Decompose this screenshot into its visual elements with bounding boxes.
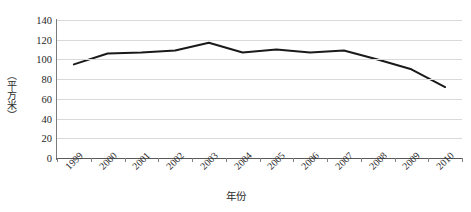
- y-axis-title: （平方米）: [2, 52, 20, 138]
- y-tick-label: 100: [36, 54, 52, 65]
- x-tick-mark: [125, 158, 126, 162]
- x-tick-mark: [226, 158, 227, 162]
- y-tick-label: 20: [42, 133, 53, 144]
- x-tick-mark: [158, 158, 159, 162]
- gridline: [57, 99, 462, 100]
- x-tick-mark: [91, 158, 92, 162]
- y-tick-label: 140: [36, 15, 52, 26]
- x-tick-mark: [361, 158, 362, 162]
- x-axis-title: 年份: [0, 188, 471, 203]
- x-tick-mark: [327, 158, 328, 162]
- gridline: [57, 20, 462, 21]
- plot-area: [57, 20, 462, 158]
- x-tick-mark: [395, 158, 396, 162]
- y-tick-label: 0: [47, 153, 52, 164]
- data-series-line: [74, 43, 445, 87]
- x-tick-mark: [57, 158, 58, 162]
- x-tick-mark: [462, 158, 463, 162]
- y-tick-label: 120: [36, 34, 52, 45]
- x-tick-mark: [260, 158, 261, 162]
- x-tick-mark: [428, 158, 429, 162]
- y-tick-label: 80: [42, 74, 53, 85]
- y-axis-tick-labels: 020406080100120140: [20, 0, 56, 212]
- x-tick-mark: [293, 158, 294, 162]
- y-tick-label: 40: [42, 113, 53, 124]
- gridline: [57, 79, 462, 80]
- gridline: [57, 59, 462, 60]
- gridline: [57, 138, 462, 139]
- y-tick-label: 60: [42, 93, 53, 104]
- gridline: [57, 40, 462, 41]
- gridline: [57, 119, 462, 120]
- line-chart: （平方米） 020406080100120140 199920002001200…: [0, 0, 471, 212]
- x-tick-mark: [192, 158, 193, 162]
